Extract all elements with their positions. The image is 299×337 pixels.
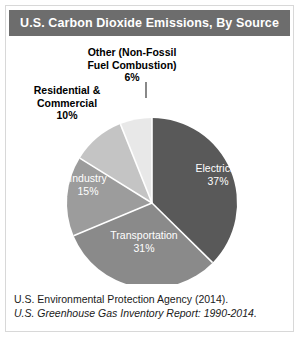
label-electricity-value: 37% — [168, 175, 268, 188]
label-industry-name: Industry — [40, 172, 136, 185]
label-transportation: Transportation 31% — [74, 229, 214, 255]
label-other-name-line1: Other (Non-Fossil — [62, 46, 202, 59]
label-other: Other (Non-Fossil Fuel Combustion) 6% — [62, 46, 202, 84]
chart-title-bar: U.S. Carbon Dioxide Emissions, By Source — [9, 10, 290, 36]
label-residential-commercial: Residential & Commercial 10% — [8, 84, 126, 122]
label-electricity-name: Electricity — [168, 162, 268, 175]
label-electricity: Electricity 37% — [168, 162, 268, 188]
label-other-name-line2: Fuel Combustion) — [62, 59, 202, 72]
label-rescom-name-line1: Residential & — [8, 84, 126, 97]
citation-line-agency: U.S. Environmental Protection Agency (20… — [14, 292, 284, 306]
label-other-value: 6% — [62, 71, 202, 84]
chart-area: Other (Non-Fossil Fuel Combustion) 6% Re… — [0, 36, 299, 284]
page-title: U.S. Carbon Dioxide Emissions, By Source — [20, 16, 279, 30]
source-citation: U.S. Environmental Protection Agency (20… — [14, 292, 284, 320]
label-rescom-name-line2: Commercial — [8, 97, 126, 110]
pie-chart-figure: U.S. Carbon Dioxide Emissions, By Source… — [0, 0, 299, 337]
label-rescom-value: 10% — [8, 109, 126, 122]
citation-line-report: U.S. Greenhouse Gas Inventory Report: 19… — [14, 306, 284, 320]
label-transportation-value: 31% — [74, 242, 214, 255]
label-industry: Industry 15% — [40, 172, 136, 198]
label-industry-value: 15% — [40, 185, 136, 198]
label-transportation-name: Transportation — [74, 229, 214, 242]
